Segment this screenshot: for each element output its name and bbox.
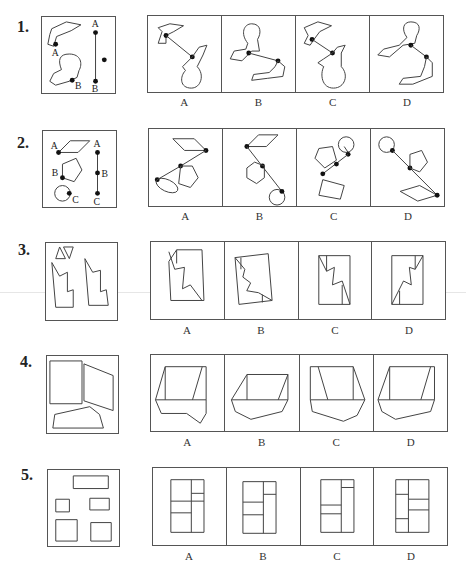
option-label-c: C <box>298 324 372 336</box>
question-number: 3. <box>18 241 30 259</box>
option-labels: A B C D <box>150 436 448 448</box>
svg-text:B: B <box>101 168 107 179</box>
option-labels: A B C D <box>152 550 448 562</box>
option-a-figure[interactable] <box>151 355 225 431</box>
option-label-a: A <box>148 210 222 222</box>
question-number: 5. <box>21 466 33 484</box>
option-label-a: A <box>152 550 226 562</box>
question-number: 2. <box>17 134 29 152</box>
option-c-figure[interactable] <box>299 242 373 319</box>
svg-text:A: A <box>92 18 99 29</box>
option-b-figure[interactable] <box>222 16 296 92</box>
option-label-a: A <box>147 96 221 108</box>
option-label-b: B <box>225 436 300 448</box>
option-label-c: C <box>297 210 371 222</box>
option-label-d: D <box>372 324 446 336</box>
question-figure <box>45 242 118 321</box>
svg-text:B: B <box>75 80 81 91</box>
option-label-b: B <box>226 550 300 562</box>
svg-text:A: A <box>51 140 58 151</box>
answer-options-panel <box>148 128 445 207</box>
option-a-figure[interactable] <box>149 129 223 206</box>
answer-options-panel <box>150 241 446 320</box>
option-d-figure[interactable] <box>374 468 447 545</box>
svg-text:C: C <box>72 194 78 205</box>
option-label-d: D <box>374 436 449 448</box>
svg-text:C: C <box>94 196 100 207</box>
option-d-figure[interactable] <box>370 16 443 92</box>
svg-text:A: A <box>52 47 59 58</box>
option-label-d: D <box>371 210 445 222</box>
question-figure: A B A B <box>41 16 116 94</box>
option-label-c: C <box>299 436 374 448</box>
option-label-a: A <box>150 324 224 336</box>
option-label-c: C <box>300 550 374 562</box>
option-d-figure[interactable] <box>371 129 444 206</box>
option-c-figure[interactable] <box>300 355 374 431</box>
option-b-figure[interactable] <box>225 355 299 431</box>
option-b-figure[interactable] <box>223 129 297 206</box>
answer-options-panel <box>147 15 444 93</box>
svg-text:A: A <box>94 138 101 149</box>
option-label-b: B <box>224 324 298 336</box>
question-figure <box>47 469 120 547</box>
answer-options-panel <box>152 467 448 546</box>
question-number: 4. <box>20 353 32 371</box>
option-label-d: D <box>370 96 444 108</box>
option-label-d: D <box>374 550 448 562</box>
option-label-b: B <box>221 96 295 108</box>
option-a-figure[interactable] <box>153 468 227 545</box>
option-a-figure[interactable] <box>148 16 222 92</box>
option-a-figure[interactable] <box>151 242 225 319</box>
option-label-c: C <box>296 96 370 108</box>
question-number: 1. <box>17 18 29 36</box>
svg-text:B: B <box>92 83 98 94</box>
answer-options-panel <box>150 354 448 432</box>
option-c-figure[interactable] <box>296 16 370 92</box>
option-labels: A B C D <box>150 324 446 336</box>
svg-text:B: B <box>52 167 58 178</box>
option-labels: A B C D <box>148 210 445 222</box>
option-labels: A B C D <box>147 96 444 108</box>
option-b-figure[interactable] <box>225 242 299 319</box>
option-label-a: A <box>150 436 225 448</box>
option-d-figure[interactable] <box>374 355 447 431</box>
option-label-b: B <box>222 210 296 222</box>
question-figure <box>46 355 119 434</box>
option-c-figure[interactable] <box>301 468 375 545</box>
option-b-figure[interactable] <box>227 468 301 545</box>
question-figure: A B C ABC <box>42 130 117 208</box>
option-c-figure[interactable] <box>297 129 371 206</box>
option-d-figure[interactable] <box>372 242 445 319</box>
